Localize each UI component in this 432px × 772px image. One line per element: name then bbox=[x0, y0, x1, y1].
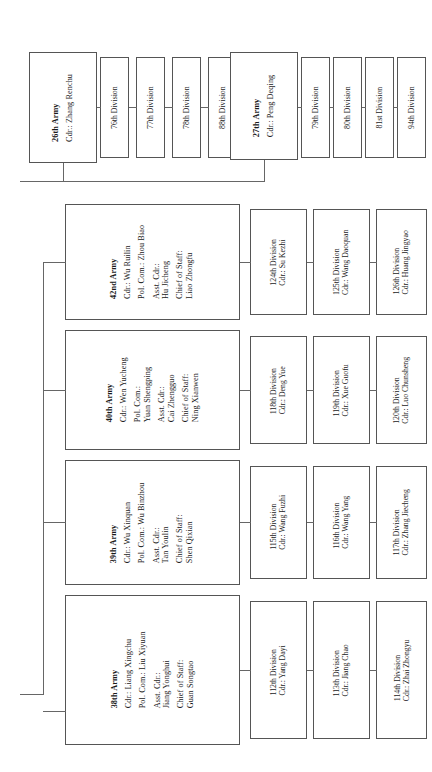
division-box-115th[interactable]: 115th Division Cdr.: Wang Fuzhi bbox=[250, 466, 307, 579]
division-commander-124th: Cdr.: Su Kezhi bbox=[278, 239, 287, 286]
army-box-42nd[interactable]: 42nd Army Cdr.: Wu Ruilin Pol. Com.: Zho… bbox=[65, 204, 240, 320]
division-box-126th[interactable]: 126th Division Cdr.: Huang Jingyao bbox=[376, 209, 427, 315]
division-name-112th: 112th Division bbox=[269, 645, 278, 695]
connector-42nd-to-124th bbox=[240, 262, 251, 263]
division-name-120th: 120th Division bbox=[392, 357, 401, 424]
division-box-81st[interactable]: 81st Division bbox=[365, 57, 394, 158]
division-box-113th[interactable]: 113th Division Cdr.: Jiang Chao bbox=[313, 601, 370, 739]
army-name-42nd: 42nd Army bbox=[110, 225, 120, 299]
division-name-119th: 119th Division bbox=[332, 364, 341, 416]
division-box-76th[interactable]: 76th Division bbox=[100, 57, 129, 158]
division-box-124th[interactable]: 124th Division Cdr.: Su Kezhi bbox=[250, 209, 307, 315]
division-box-94th[interactable]: 94th Division bbox=[397, 57, 426, 158]
connector-119th-to-120th bbox=[370, 390, 377, 391]
division-commander-118th: Cdr.: Deng Yue bbox=[278, 366, 287, 414]
stem-27th-army bbox=[264, 160, 265, 181]
army-box-40th-text: 40th Army Cdr.: Wen Yucheng Pol. Com.: Y… bbox=[66, 331, 239, 449]
army-box-38th[interactable]: 38th Army Cdr.: Liang Xingchu Pol. Com.:… bbox=[65, 595, 240, 745]
army-chief-of-staff-name-40th: Ning Xianwen bbox=[191, 358, 201, 423]
division-box-120th[interactable]: 120th Division Cdr.: Luo Chunsheng bbox=[376, 336, 427, 444]
connector-76th-to-77th bbox=[129, 107, 137, 108]
division-box-112th[interactable]: 112th Division Cdr.: Yang Dayi bbox=[250, 601, 307, 739]
org-chart: 26th Army Cdr.: Zhang Renchu 76th Divisi… bbox=[0, 0, 432, 772]
connector-118th-to-119th bbox=[307, 390, 314, 391]
division-box-80th[interactable]: 80th Division bbox=[333, 57, 362, 158]
division-box-119th[interactable]: 119th Division Cdr.: Xue Guofu bbox=[313, 336, 370, 444]
army-asst-cdr-name-39th: Tan Youlin bbox=[162, 482, 172, 563]
army-box-27th[interactable]: 27th Army Cdr.: Peng Deqing bbox=[230, 52, 298, 160]
army-chief-of-staff-label-38th: Chief of Staff: bbox=[176, 632, 186, 709]
army-box-39th[interactable]: 39th Army Cdr.: Wu Xinquan Pol. Com.: Wu… bbox=[65, 460, 240, 585]
army-name-38th: 38th Army bbox=[110, 632, 120, 709]
division-name-77th: 77th Division bbox=[146, 86, 155, 129]
division-name-78th: 78th Division bbox=[182, 86, 191, 129]
army-political-commissar-label-40th: Pol. Com.: bbox=[133, 358, 143, 423]
army-chief-of-staff-label-42nd: Chief of Staff: bbox=[176, 225, 186, 299]
division-box-77th[interactable]: 77th Division bbox=[136, 57, 165, 158]
army-asst-cdr-label-38th: Asst. Cdr.: bbox=[152, 632, 162, 709]
division-commander-119th: Cdr.: Xue Guofu bbox=[341, 364, 350, 416]
division-name-126th: 126th Division bbox=[392, 230, 401, 294]
army-name-26th: 26th Army bbox=[51, 74, 61, 142]
connector-81st-to-94th bbox=[394, 107, 398, 108]
division-box-117th[interactable]: 117th Division Cdr.: Zhang Jiecheng bbox=[376, 466, 427, 579]
division-commander-112th: Cdr.: Yang Dayi bbox=[278, 645, 287, 695]
army-asst-cdr-label-42nd: Asst. Cdr.: bbox=[152, 225, 162, 299]
bus-top-group bbox=[20, 181, 265, 182]
army-box-26th-text: 26th Army Cdr.: Zhang Renchu bbox=[30, 53, 96, 162]
division-commander-113th: Cdr.: Jiang Chao bbox=[341, 644, 350, 696]
army-commander-27th: Cdr.: Peng Deqing bbox=[266, 75, 276, 137]
connector-bus-to-39th bbox=[43, 522, 66, 523]
division-name-113th: 113th Division bbox=[332, 644, 341, 696]
army-political-commissar-38th: Pol. Com.: Liu Xiyuan bbox=[138, 632, 148, 709]
army-chief-of-staff-name-39th: Shen Qixian bbox=[186, 482, 196, 563]
connector-116th-to-117th bbox=[370, 522, 377, 523]
division-box-118th[interactable]: 118th Division Cdr.: Deng Yue bbox=[250, 336, 307, 444]
army-asst-cdr-name-40th: Cai Zhengguo bbox=[167, 358, 177, 423]
army-political-commissar-42nd: Pol. Com.: Zhou Biao bbox=[138, 225, 148, 299]
division-commander-126th: Cdr.: Huang Jingyao bbox=[402, 230, 411, 294]
army-name-27th: 27th Army bbox=[252, 75, 262, 137]
division-commander-117th: Cdr.: Zhang Jiecheng bbox=[402, 489, 411, 555]
army-box-38th-text: 38th Army Cdr.: Liang Xingchu Pol. Com.:… bbox=[66, 596, 239, 744]
army-political-commissar-name-40th: Yuan Shengping bbox=[143, 358, 153, 423]
division-name-79th: 79th Division bbox=[311, 86, 320, 129]
division-commander-114th: Cdr.: Zhai Zhongyu bbox=[402, 639, 411, 701]
connector-79th-to-80th bbox=[330, 107, 334, 108]
division-name-114th: 114th Division bbox=[392, 639, 401, 701]
army-asst-cdr-name-38th: Jiang Yonghui bbox=[162, 632, 172, 709]
division-box-125th[interactable]: 125th Division Cdr.: Wang Daoquan bbox=[313, 209, 370, 315]
division-box-79th[interactable]: 79th Division bbox=[301, 57, 330, 158]
connector-bus-to-42nd bbox=[43, 262, 66, 263]
army-commander-39th: Cdr.: Wu Xinquan bbox=[124, 482, 134, 563]
bus-bottom-group-tail bbox=[20, 694, 44, 695]
connector-40th-to-118th bbox=[240, 390, 251, 391]
division-name-81st: 81st Division bbox=[375, 87, 384, 129]
connector-125th-to-126th bbox=[370, 262, 377, 263]
army-asst-cdr-label-40th: Asst. Cdr.: bbox=[157, 358, 167, 423]
army-box-42nd-text: 42nd Army Cdr.: Wu Ruilin Pol. Com.: Zho… bbox=[66, 205, 239, 319]
division-box-78th[interactable]: 78th Division bbox=[172, 57, 201, 158]
division-name-125th: 125th Division bbox=[332, 229, 341, 294]
army-commander-40th: Cdr.: Wen Yucheng bbox=[119, 358, 129, 423]
army-chief-of-staff-label-39th: Chief of Staff: bbox=[176, 482, 186, 563]
division-name-115th: 115th Division bbox=[269, 495, 278, 550]
division-commander-116th: Cdr.: Wang Yang bbox=[341, 496, 350, 549]
army-box-27th-text: 27th Army Cdr.: Peng Deqing bbox=[231, 53, 297, 159]
connector-38th-to-112th bbox=[240, 670, 251, 671]
army-box-26th[interactable]: 26th Army Cdr.: Zhang Renchu bbox=[29, 52, 97, 163]
division-commander-125th: Cdr.: Wang Daoquan bbox=[342, 229, 351, 294]
army-chief-of-staff-name-38th: Guan Songtao bbox=[186, 632, 196, 709]
connector-78th-to-88th bbox=[201, 107, 209, 108]
connector-115th-to-116th bbox=[307, 522, 314, 523]
bus-bottom-group bbox=[43, 262, 44, 694]
connector-112th-to-113th bbox=[307, 670, 314, 671]
division-name-94th: 94th Division bbox=[407, 86, 416, 129]
division-box-114th[interactable]: 114th Division Cdr.: Zhai Zhongyu bbox=[376, 601, 427, 739]
connector-bus-to-40th bbox=[43, 390, 66, 391]
army-asst-cdr-name-42nd: Hu Jicheng bbox=[162, 225, 172, 299]
stem-26th-army bbox=[63, 163, 64, 181]
army-box-40th[interactable]: 40th Army Cdr.: Wen Yucheng Pol. Com.: Y… bbox=[65, 330, 240, 450]
division-name-124th: 124th Division bbox=[269, 239, 278, 286]
division-box-116th[interactable]: 116th Division Cdr.: Wang Yang bbox=[313, 466, 370, 579]
